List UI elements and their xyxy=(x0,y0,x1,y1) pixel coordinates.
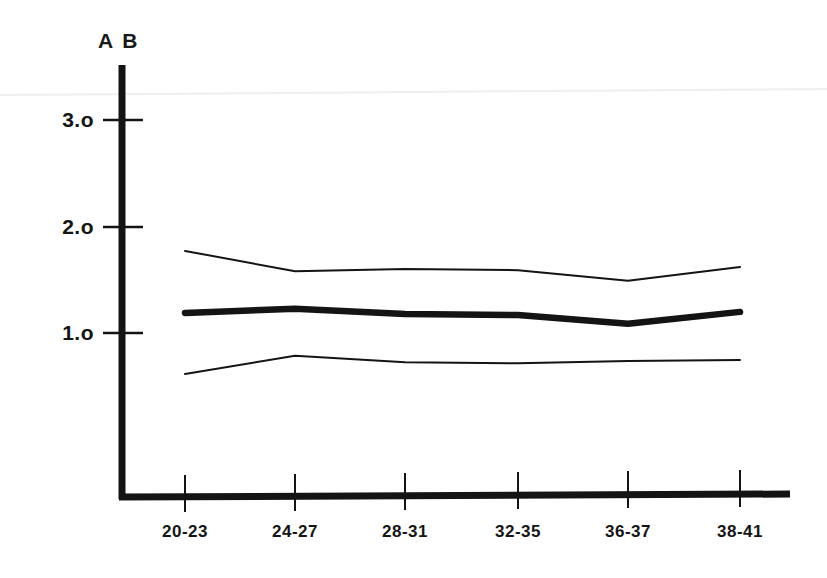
x-tick-marks xyxy=(185,470,740,512)
series-line-mean xyxy=(185,309,740,324)
series-line-upper-bound xyxy=(185,251,740,281)
x-axis-line xyxy=(119,494,790,497)
plot-area xyxy=(0,0,827,578)
series-line-lower-bound xyxy=(185,356,740,374)
chart-figure: A B 3.o 2.o 1.o 20-23 24-27 28-31 32-35 … xyxy=(0,0,827,578)
